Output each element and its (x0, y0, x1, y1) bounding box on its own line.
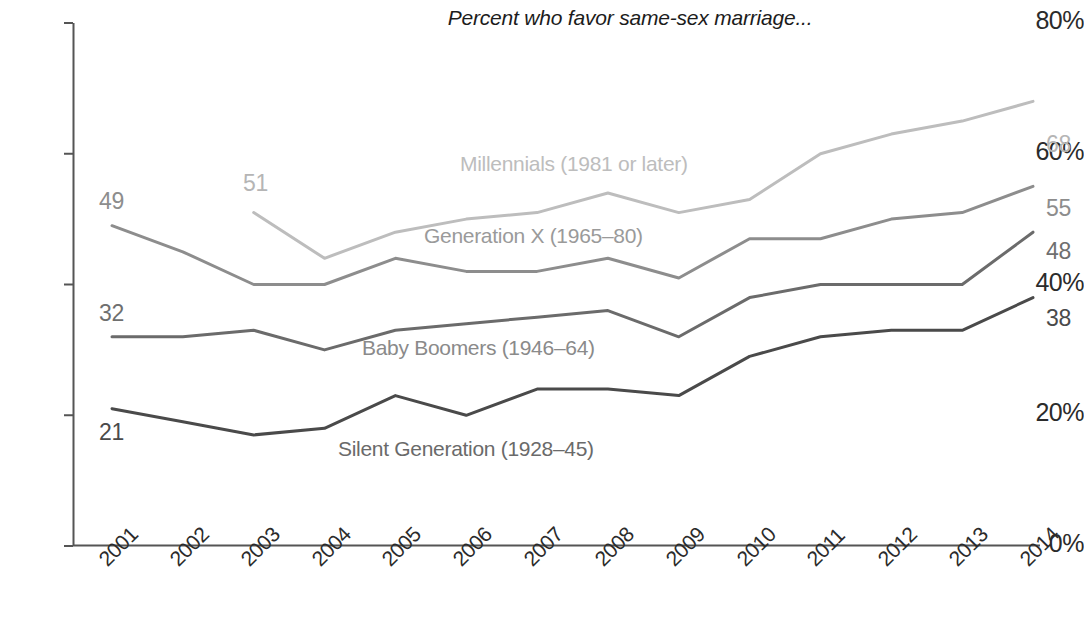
value-label-silent-end: 38 (1046, 305, 1071, 332)
y-axis-tick-label: 40% (1024, 268, 1084, 297)
value-label-genx-start: 49 (99, 188, 124, 215)
value-label-boomers-start: 32 (99, 300, 124, 327)
value-label-millennials-end: 68 (1046, 131, 1071, 158)
value-label-silent-start: 21 (99, 419, 124, 446)
y-axis-tick-label: 20% (1024, 398, 1084, 427)
y-axis-tick-label: 80% (1024, 6, 1084, 35)
chart-container: Percent who favor same-sex marriage... 0… (0, 0, 1084, 632)
series-line (112, 298, 1033, 435)
series-label-baby-boomers: Baby Boomers (1946–64) (362, 336, 595, 360)
value-label-millennials-start: 51 (243, 170, 268, 197)
series-line (112, 232, 1033, 350)
series-label-generation-x: Generation X (1965–80) (424, 224, 643, 248)
value-label-boomers-end: 48 (1046, 238, 1071, 265)
value-label-genx-end: 55 (1046, 195, 1071, 222)
y-axis-ticks (64, 23, 73, 546)
series-label-millennials: Millennials (1981 or later) (460, 152, 688, 176)
series-line (254, 101, 1033, 258)
series-label-silent-generation: Silent Generation (1928–45) (338, 437, 594, 461)
